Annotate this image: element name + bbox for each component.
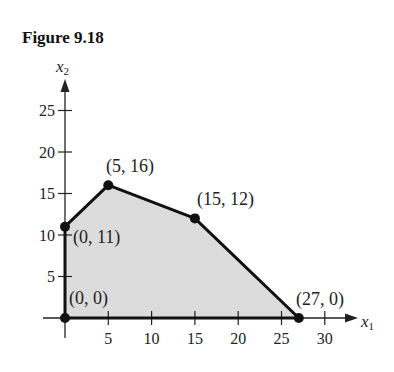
x-tick-label: 5 xyxy=(104,330,112,347)
x-tick-label: 20 xyxy=(230,330,246,347)
x-axis-arrow-icon xyxy=(345,314,358,323)
vertex-label: (0, 0) xyxy=(69,288,108,309)
vertex-label: (5, 16) xyxy=(106,156,154,177)
vertex-point xyxy=(294,313,304,323)
y-tick-label: 5 xyxy=(47,268,55,285)
vertex-point xyxy=(190,213,200,223)
y-tick-label: 20 xyxy=(39,144,55,161)
x-tick-label: 10 xyxy=(144,330,160,347)
x-tick-label: 30 xyxy=(317,330,333,347)
x-axis-label: x1 xyxy=(360,312,374,332)
y-tick-label: 25 xyxy=(39,102,55,119)
vertex-label: (27, 0) xyxy=(296,289,344,310)
vertex-label: (0, 11) xyxy=(73,227,120,248)
vertex-point xyxy=(103,180,113,190)
x-tick-labels: 5 10 15 20 25 30 xyxy=(104,330,332,347)
y-axis-arrow-icon xyxy=(61,79,70,92)
x-tick-label: 15 xyxy=(187,330,203,347)
vertex-label: (15, 12) xyxy=(197,189,254,210)
vertex-point xyxy=(60,222,70,232)
x-tick-label: 25 xyxy=(274,330,290,347)
y-tick-labels: 5 10 15 20 25 xyxy=(39,102,55,285)
y-axis-label: x2 xyxy=(55,57,69,77)
vertex-point xyxy=(60,313,70,323)
y-tick-label: 15 xyxy=(39,185,55,202)
y-tick-label: 10 xyxy=(39,227,55,244)
chart-svg: 5 10 15 20 25 30 5 10 15 20 25 (0, 0) (0… xyxy=(0,0,394,372)
